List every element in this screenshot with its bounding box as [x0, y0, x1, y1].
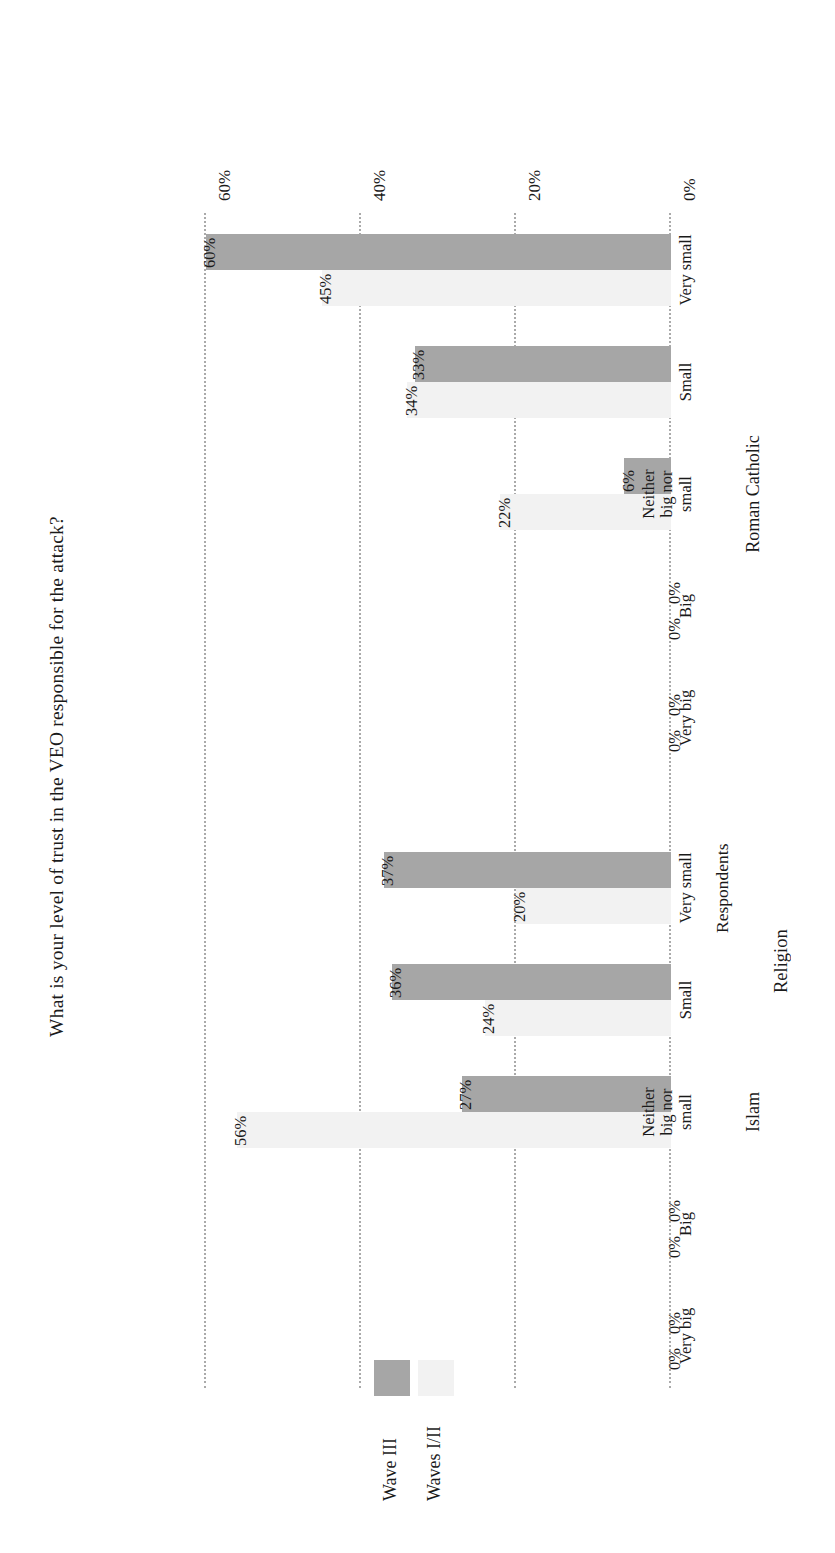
legend-label-wave-iii: Wave III: [380, 1438, 401, 1501]
chart-title: What is your level of trust in the VEO r…: [46, 0, 68, 1553]
y-axis-tick-label: 20%: [525, 170, 545, 201]
bar-value-label: 24%: [479, 1004, 499, 1034]
category-label: Small: [677, 346, 695, 418]
bar-value-label: 27%: [456, 1080, 476, 1110]
category-label: Very big: [677, 1300, 695, 1372]
gridline: [359, 213, 361, 1388]
axis-title-respondents: Respondents: [712, 844, 733, 933]
bar-value-label: 34%: [402, 386, 422, 416]
y-axis-tick-label: 40%: [370, 170, 390, 201]
bar-value-label: 36%: [386, 968, 406, 998]
bar-value-label: 60%: [200, 238, 220, 268]
category-label: Big: [677, 570, 695, 642]
bar-waves-i-ii: [322, 270, 671, 306]
bar-wave-iii: [392, 964, 671, 1000]
plot-area: [206, 213, 671, 1388]
y-axis-tick-label: 60%: [215, 170, 235, 201]
bar-value-label: 45%: [316, 274, 336, 304]
bar-value-label: 22%: [495, 498, 515, 528]
bar-waves-i-ii: [516, 888, 671, 924]
axis-title-religion: Religion: [771, 929, 792, 993]
category-label: Big: [677, 1188, 695, 1260]
bar-value-label: 6%: [619, 470, 639, 492]
bar-value-label: 37%: [378, 856, 398, 886]
rotated-figure-container: What is your level of trust in the VEO r…: [0, 0, 835, 1553]
bar-waves-i-ii: [408, 382, 672, 418]
category-label: Very big: [677, 682, 695, 754]
legend-label-waves-i-ii: Waves I/II: [424, 1426, 445, 1501]
bar-chart-figure: What is your level of trust in the VEO r…: [0, 0, 835, 1553]
group-label: Roman Catholic: [743, 435, 764, 552]
bar-value-label: 33%: [409, 350, 429, 380]
category-label: Small: [677, 964, 695, 1036]
bar-wave-iii: [206, 234, 671, 270]
bar-wave-iii: [415, 346, 671, 382]
category-label: Very small: [677, 234, 695, 306]
category-label: Neither big nor small: [640, 1076, 695, 1148]
bar-wave-iii: [384, 852, 671, 888]
y-axis-tick-label: 0%: [680, 178, 700, 201]
gridline: [204, 213, 206, 1388]
category-label: Very small: [677, 852, 695, 924]
group-label: Islam: [743, 1092, 764, 1132]
bar-value-label: 20%: [510, 892, 530, 922]
bar-waves-i-ii: [485, 1000, 671, 1036]
bar-waves-i-ii: [237, 1112, 671, 1148]
category-label: Neither big nor small: [640, 458, 695, 530]
bar-value-label: 56%: [231, 1116, 251, 1146]
